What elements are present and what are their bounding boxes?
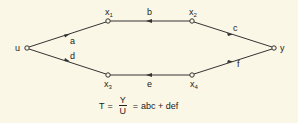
eq-lhs: T [99,101,105,111]
edge-u-x3 [29,49,106,74]
node-label-x2: x2 [189,8,197,20]
node-label-y: y [280,44,285,53]
arrow-b-icon [146,19,152,23]
transfer-function-equation: T = Y U = abc + def [99,95,178,116]
node-label-u: u [15,44,20,53]
gain-e: e [147,80,152,89]
eq-numerator: Y [119,95,127,106]
gain-d: d [70,52,75,61]
gain-c: c [233,24,238,33]
node-x3 [106,73,110,77]
node-label-x1: x1 [105,8,113,20]
gain-f: f [237,60,240,69]
gain-a: a [70,37,75,46]
eq-denominator: U [120,106,127,116]
node-x4 [190,73,194,77]
node-y [272,46,276,50]
node-label-x4: x4 [190,80,198,92]
eq-equals-1: = [108,101,113,111]
eq-rhs: abc + def [141,101,178,111]
node-label-x3: x3 [104,80,112,92]
gain-b: b [147,8,152,17]
node-u [25,46,29,50]
arrow-e-icon [146,73,152,77]
eq-fraction: Y U [119,95,127,116]
eq-equals-2: = [133,101,138,111]
